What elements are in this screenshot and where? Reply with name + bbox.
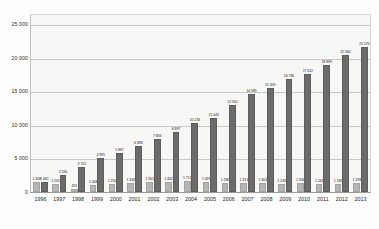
bar-group: 1 71310 233 <box>182 14 201 192</box>
x-axis-tick-label: 2008 <box>257 196 276 202</box>
x-axis-tick-label: 2010 <box>295 196 314 202</box>
bar-series-dark <box>135 146 142 192</box>
y-axis-tick-label: 25 000 <box>0 21 28 27</box>
bar-series-dark <box>173 132 180 192</box>
bar-value-label: 3 702 <box>75 162 88 166</box>
bar-series-dark <box>267 88 274 192</box>
bar-series-light <box>165 182 172 192</box>
bar-series-light <box>203 182 210 192</box>
y-axis-tick-label: 10 000 <box>0 122 28 128</box>
bar-series-light <box>335 184 342 192</box>
bar-group: 1 5617 856 <box>144 14 163 192</box>
y-axis: 05 00010 00015 00020 00025 000 <box>0 14 28 192</box>
bar-value-label: 7 856 <box>151 134 164 138</box>
bar-series-dark <box>78 167 85 192</box>
bar-series-dark <box>248 94 255 192</box>
bar-series-light <box>353 183 360 192</box>
x-axis-tick-label: 2000 <box>106 196 125 202</box>
bar-series-light <box>146 182 153 192</box>
bar-group: 1 0484 995 <box>88 14 107 192</box>
bar-series-dark <box>323 65 330 192</box>
bar-group: 1 31314 589 <box>238 14 257 192</box>
bar-value-label: 6 838 <box>132 141 145 145</box>
bar-series-light <box>297 183 304 192</box>
bar-value-label: 11 043 <box>207 113 220 117</box>
bar-series-dark <box>191 123 198 192</box>
x-axis-tick-label: 2003 <box>163 196 182 202</box>
bar-value-label: 5 867 <box>113 148 126 152</box>
x-axis-tick-label: 2011 <box>314 196 333 202</box>
bar-group: 1 4628 897 <box>163 14 182 192</box>
bar-value-label: 15 509 <box>264 83 277 87</box>
bar-value-label: 12 901 <box>226 100 239 104</box>
x-axis-tick-label: 2002 <box>144 196 163 202</box>
bar-value-label: 14 589 <box>245 89 258 93</box>
y-axis-tick-label: 0 <box>0 189 28 195</box>
x-axis-tick-label: 1998 <box>69 196 88 202</box>
bar-group: 1 49911 043 <box>201 14 220 192</box>
bar-value-label: 16 785 <box>283 74 296 78</box>
bar-group: 1 4581 462 <box>31 14 50 192</box>
bar-series-dark <box>154 139 161 192</box>
bar-series-dark <box>210 118 217 192</box>
bar-group: 1 30315 509 <box>257 14 276 192</box>
bar-group: 1 24418 899 <box>314 14 333 192</box>
bar-value-label: 21 576 <box>358 42 371 46</box>
bar-series-dark <box>60 175 67 192</box>
bar-chart: 05 00010 00015 00020 00025 000 1 4581 46… <box>0 0 379 229</box>
bar-group: 1 3366 838 <box>125 14 144 192</box>
x-axis-tick-label: 1996 <box>31 196 50 202</box>
bar-series-dark <box>97 158 104 192</box>
bar-value-label: 2 590 <box>57 170 70 174</box>
x-axis-tick-label: 2005 <box>201 196 220 202</box>
x-axis: 1996199719981999200020012002200320042005… <box>31 196 370 210</box>
bar-series-light <box>52 184 59 192</box>
bar-value-label: 4 995 <box>94 153 107 157</box>
x-axis-tick-label: 1997 <box>50 196 69 202</box>
bar-series-light <box>222 183 229 192</box>
bars-layer: 1 4581 4621 2052 5904913 7021 0484 9951 … <box>31 14 370 192</box>
bar-value-label: 10 233 <box>188 118 201 122</box>
bar-group: 4913 702 <box>69 14 88 192</box>
x-axis-tick-label: 2001 <box>125 196 144 202</box>
bar-group: 1 2052 590 <box>50 14 69 192</box>
bar-series-light <box>278 184 285 192</box>
x-axis-tick-label: 2012 <box>332 196 351 202</box>
x-axis-tick-label: 2013 <box>351 196 370 202</box>
bar-series-light <box>33 182 40 192</box>
bar-series-light <box>184 181 191 193</box>
bar-group: 1 28012 901 <box>219 14 238 192</box>
bar-group: 1 18020 362 <box>332 14 351 192</box>
bar-series-dark <box>342 55 349 192</box>
x-axis-tick-label: 2006 <box>219 196 238 202</box>
y-axis-tick-label: 15 000 <box>0 88 28 94</box>
bar-series-dark <box>229 105 236 192</box>
x-axis-tick-label: 2004 <box>182 196 201 202</box>
bar-group: 1 24316 785 <box>276 14 295 192</box>
bar-series-light <box>127 183 134 192</box>
bar-group: 1 33617 612 <box>295 14 314 192</box>
bar-series-dark <box>41 182 48 192</box>
axis-baseline <box>30 192 371 193</box>
bar-value-label: 18 899 <box>320 60 333 64</box>
bar-value-label: 20 362 <box>339 50 352 54</box>
y-axis-tick-label: 20 000 <box>0 55 28 61</box>
bar-value-label: 17 612 <box>301 69 314 73</box>
bar-series-light <box>316 184 323 192</box>
bar-group: 1 2505 867 <box>106 14 125 192</box>
bar-series-light <box>259 183 266 192</box>
bar-series-dark <box>304 74 311 192</box>
bar-value-label: 8 897 <box>170 127 183 131</box>
bar-series-light <box>90 185 97 192</box>
y-axis-tick-label: 5 000 <box>0 155 28 161</box>
bar-series-light <box>240 183 247 192</box>
bar-group: 1 29821 576 <box>351 14 370 192</box>
bar-series-light <box>109 184 116 192</box>
bar-series-dark <box>361 47 368 192</box>
x-axis-tick-label: 2009 <box>276 196 295 202</box>
bar-series-dark <box>286 79 293 192</box>
x-axis-tick-label: 2007 <box>238 196 257 202</box>
x-axis-tick-label: 1999 <box>88 196 107 202</box>
bar-series-dark <box>116 153 123 192</box>
